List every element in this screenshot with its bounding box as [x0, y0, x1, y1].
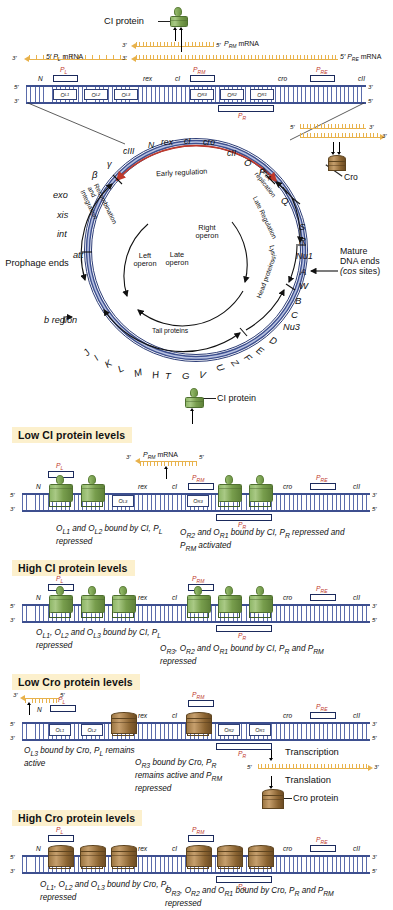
gene-label-cro-p2: cro [283, 594, 292, 601]
circle-gene-B: B [295, 295, 301, 306]
promoter-box-PL-p3 [50, 705, 76, 712]
gene-label-N: N [38, 75, 43, 82]
bound-ci-OL1-p2 [49, 586, 71, 613]
operator-box-OR3-p1: OR3 [187, 495, 209, 507]
prm-mrna-strand-top [136, 42, 214, 51]
promoter-box-PRE-p3 [310, 712, 336, 719]
operator-box-OL2-p3: OL2 [81, 724, 103, 736]
gene-label-cII-p1: cII [353, 483, 360, 490]
arc-label-late-operon: Late operon [160, 251, 194, 268]
prm-mrna-label: PRM mRNA [224, 40, 259, 49]
duplex-3prime-left-p1: 3′ [10, 505, 15, 512]
operator-box-OR2-p3: OR2 [218, 724, 240, 736]
caption-high-ci-right: OR3, OR2 and OR1 bound by CI, PR and PRM… [160, 644, 335, 667]
pl-mrna-three-prime: 3′ [12, 54, 17, 61]
circle-gene-cro: cro [203, 137, 215, 147]
gene-label-rex-p1: rex [138, 483, 147, 490]
caption-low-ci-left: OL1 and OL2 bound by CI, PL repressed [56, 524, 176, 547]
panel-heading-low-ci-wrap: Low CI protein levels [12, 425, 132, 443]
panel-heading-low-ci: Low CI protein levels [12, 427, 132, 443]
promoter-box-PR-top [218, 105, 274, 112]
translation-arrow-up-2 [181, 30, 182, 41]
promoter-box-PL-top [53, 75, 78, 82]
cro-mrna-three-prime: 3′ [369, 123, 374, 130]
circle-gene-S: S [299, 221, 305, 232]
duplex-3prime-right-p2: 3′ [372, 602, 377, 609]
promoter-box-PRE-top [310, 75, 335, 82]
promoter-label-PL-p2: PL [56, 575, 63, 584]
promoter-label-PRM-p4: PRM [192, 826, 204, 835]
gene-label-cI-p4: cI [172, 845, 177, 852]
promoter-label-PR-p2: PR [238, 632, 246, 641]
pl-transcription-arrow-p3 [29, 705, 30, 715]
bound-ci-OL1-p1 [49, 475, 71, 502]
translation-arrow-p3 [271, 776, 272, 786]
bound-ci-OR1-p1 [249, 475, 271, 502]
bound-ci-OL2-p2 [81, 586, 103, 613]
cro-protein-icon-p3 [262, 789, 282, 807]
bound-ci-OR2-p1 [218, 475, 240, 502]
ci-protein-label-top: CI protein [104, 16, 144, 26]
duplex-5prime-right-p1: 5′ [372, 505, 377, 512]
arc-label-tail-proteins: Tail proteins [152, 327, 188, 334]
circle-gene-gamma: γ [107, 159, 112, 169]
operator-box-OL1-p3: OL1 [49, 724, 71, 736]
caption-high-cro-left: OL1, OL2 and OL3 bound by Cro, PL repres… [40, 880, 172, 903]
circle-gene-rex: rex [161, 137, 173, 147]
promoter-label-PRM-p2: PRM [192, 575, 204, 584]
promoter-box-PRM-p3 [188, 700, 214, 707]
promoter-label-PL-p3: PL [58, 696, 65, 705]
duplex-5prime-left-top: 5′ [14, 83, 19, 90]
ci-leader-line [158, 21, 170, 22]
promoter-label-PRE-p1: PRE [316, 474, 328, 483]
bound-cro-OR1-p4 [248, 845, 272, 865]
bound-ci-OL2-p1 [81, 475, 103, 502]
duplex-3prime-right-p4: 3′ [372, 853, 377, 860]
circle-gene-R: R [299, 235, 306, 246]
circle-gene-T: T [165, 370, 171, 381]
gene-label-cI-p3: cI [172, 712, 177, 719]
promoter-label-PRE-p4: PRE [316, 836, 328, 845]
gene-label-cII-p3: cII [353, 712, 360, 719]
pre-mrna-three-prime: 3′ [122, 54, 127, 61]
prm-mrna-three-prime: 3′ [122, 41, 127, 48]
operator-box-OL2-top: OL2 [84, 89, 108, 100]
duplex-5prime-left-p1: 5′ [10, 491, 15, 498]
panel-heading-low-cro: Low Cro protein levels [12, 674, 140, 690]
cro-mrna-5prime-p3: 5′ [247, 763, 252, 770]
duplex-3prime-left-p2: 3′ [10, 616, 15, 623]
promoter-label-PRM-p3: PRM [192, 691, 204, 700]
ci-protein-label-panel1: CI protein [217, 393, 256, 403]
top-genome-map: CI protein 3′ 5′ PRM mRNA 3′ 5′ PL mRNA … [0, 0, 393, 140]
gene-label-N-p4: N [36, 845, 41, 852]
panel-heading-high-ci: High CI protein levels [12, 560, 135, 576]
cro-mrna-3prime-p3: 3′ [374, 763, 379, 770]
promoter-label-PRE-p2: PRE [316, 585, 328, 594]
gene-label-cro-p4: cro [283, 845, 292, 852]
bound-cro-OR2-p4 [217, 845, 241, 865]
circle-gene-O: O [244, 157, 251, 168]
operator-box-OR1-p3: OR1 [249, 724, 271, 736]
duplex-5prime-right-p4: 5′ [372, 867, 377, 874]
cro-mrna-five-prime: 5′ [290, 123, 295, 130]
circle-gene-Nu1: Nu1 [296, 251, 313, 261]
circle-gene-beta: β [92, 169, 97, 180]
promoter-box-PL-p4 [48, 835, 74, 842]
translation-arrow-up-1 [175, 30, 176, 41]
gene-label-cro-p1: cro [283, 483, 292, 490]
gene-label-cII-p4: cII [353, 845, 360, 852]
duplex-5prime-left-p4: 5′ [10, 853, 15, 860]
ci-translation-arrow-panel1 [192, 411, 193, 424]
circle-gene-A: A [300, 266, 306, 277]
promoter-label-PL-p4: PL [56, 826, 63, 835]
prm-tick [181, 41, 182, 52]
caption-high-cro-right: OR3, OR2 and OR1 bound by Cro, PR and PR… [165, 886, 340, 909]
duplex-5prime-right-p3: 5′ [372, 734, 377, 741]
duplex-5prime-left-p2: 5′ [10, 602, 15, 609]
ci-protein-icon-top [170, 7, 186, 26]
bound-ci-OR2-p2 [218, 586, 240, 613]
ci-protein-icon-panel1 [185, 388, 202, 409]
panel-heading-high-cro-wrap: High Cro protein levels [12, 808, 142, 826]
translation-label-p3: Translation [285, 774, 331, 785]
promoter-label-PRE-p3: PRE [316, 703, 328, 712]
